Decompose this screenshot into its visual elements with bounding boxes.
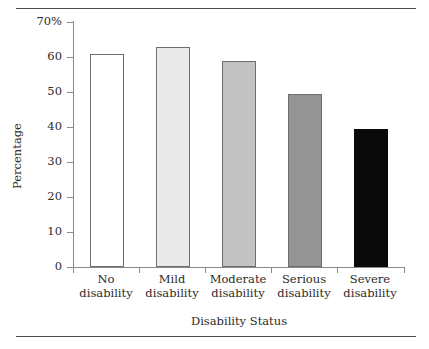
y-axis-title: Percentage [10,96,26,216]
x-category-line-1: Severe [337,272,403,286]
x-category-line-2: disability [73,286,139,300]
y-tick-label-40: 40 [47,121,62,133]
bar-chart-figure: 70% 60 50 40 30 20 10 0 No disability Mi… [0,0,429,349]
x-category-label-serious-disability: Serious disability [271,272,337,300]
x-category-line-1: Mild [139,272,205,286]
bar-mild-disability [156,47,190,268]
x-category-line-2: disability [337,286,403,300]
x-category-line-2: disability [271,286,337,300]
x-category-label-no-disability: No disability [73,272,139,300]
y-tick-label-20: 20 [47,191,62,203]
bottom-divider-rule [16,336,416,337]
plot-area [74,22,404,267]
bar-moderate-disability [222,61,256,268]
y-tick-label-60: 60 [47,51,62,63]
bar-severe-disability [354,129,388,267]
bar-serious-disability [288,94,322,267]
y-tick-label-10: 10 [47,226,62,238]
x-axis-line [73,267,405,268]
x-category-line-1: No [73,272,139,286]
y-tick-40 [67,127,73,128]
y-tick-20 [67,197,73,198]
y-tick-10 [67,232,73,233]
x-category-line-2: disability [205,286,271,300]
y-tick-50 [67,92,73,93]
top-divider-rule [16,8,416,9]
bar-no-disability [90,54,124,268]
x-category-label-mild-disability: Mild disability [139,272,205,300]
x-category-label-moderate-disability: Moderate disability [205,272,271,300]
x-axis-title: Disability Status [74,314,404,328]
x-category-line-2: disability [139,286,205,300]
x-category-line-1: Serious [271,272,337,286]
x-category-line-1: Moderate [205,272,271,286]
x-tick-5 [404,267,405,273]
x-category-label-severe-disability: Severe disability [337,272,403,300]
y-tick-label-0: 0 [55,261,62,273]
y-axis-title-text: Percentage [10,96,24,216]
y-tick-30 [67,162,73,163]
y-tick-label-70: 70% [36,16,62,28]
y-tick-70 [67,22,73,23]
y-tick-label-50: 50 [47,86,62,98]
y-tick-label-30: 30 [47,156,62,168]
y-tick-60 [67,57,73,58]
